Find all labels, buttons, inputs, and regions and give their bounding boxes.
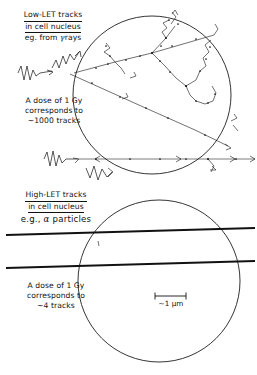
low-let-heading-line2: in cell nucleus xyxy=(25,22,81,34)
high-let-heading-line3-prefix: e.g., xyxy=(21,214,44,224)
high-let-heading-line1: High-LET tracks xyxy=(25,190,86,202)
high-let-dose-line2: corresponds to xyxy=(8,291,104,301)
low-let-dose-line1: A dose of 1 Gy xyxy=(8,96,100,106)
low-let-heading-line3-suffix: rays xyxy=(65,33,82,42)
let-track-diagram xyxy=(0,0,257,375)
canvas-background xyxy=(0,0,257,375)
low-let-heading: Low-LET tracks in cell nucleus eg. from … xyxy=(10,10,96,44)
low-let-dose-line3: ~1000 tracks xyxy=(8,116,100,126)
high-let-heading-line3-suffix: particles xyxy=(50,214,92,224)
high-let-heading: High-LET tracks in cell nucleus e.g., α … xyxy=(10,190,102,225)
high-let-dose-note: A dose of 1 Gy corresponds to ~4 tracks xyxy=(8,281,104,312)
scale-bar-label: ~1 μm xyxy=(141,299,201,308)
low-let-dose-line2: corresponds to xyxy=(8,106,100,116)
low-let-dose-note: A dose of 1 Gy corresponds to ~1000 trac… xyxy=(8,96,100,127)
high-let-dose-line1: A dose of 1 Gy xyxy=(8,281,104,291)
low-let-heading-line1: Low-LET tracks xyxy=(24,10,82,22)
high-let-dose-line3: ~4 tracks xyxy=(8,301,104,311)
low-let-heading-line3-prefix: eg. from xyxy=(25,33,60,42)
high-let-heading-line2: in cell nucleus xyxy=(28,202,84,214)
